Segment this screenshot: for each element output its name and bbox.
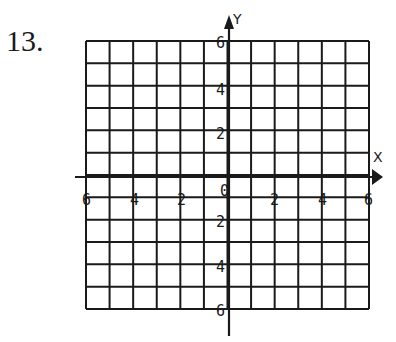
y-tick-label: 4: [216, 81, 225, 99]
y-axis-label: Y: [232, 11, 242, 27]
x-tick-label: 4: [318, 191, 327, 209]
x-axis-label: X: [373, 149, 383, 165]
y-tick-label: 6: [216, 302, 225, 320]
y-tick-label: 2: [216, 213, 225, 231]
grid-lines: [86, 41, 369, 309]
x-tick-label: 6: [364, 191, 373, 209]
y-tick-label: 6: [216, 34, 225, 52]
x-axis-arrow-icon: [372, 169, 383, 185]
x-tick-label: 2: [270, 191, 279, 209]
x-tick-label: 2: [177, 191, 186, 209]
x-tick-label: 6: [82, 191, 91, 209]
x-tick-label: 4: [130, 191, 139, 209]
coordinate-grid: X Y 6 4 2 0 2 4 6 6 4 2 2 4 6: [0, 0, 396, 342]
y-tick-label: 2: [216, 125, 225, 143]
x-tick-label: 0: [220, 182, 229, 200]
y-tick-label: 4: [216, 258, 225, 276]
